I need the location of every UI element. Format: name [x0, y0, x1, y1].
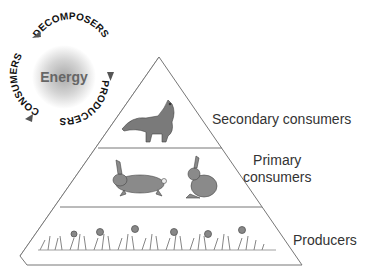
- label-producers: Producers: [293, 232, 357, 249]
- arrow-producers-to-consumers-icon: [25, 114, 33, 122]
- label-primary-line1: Primary: [243, 152, 311, 169]
- energy-cycle: Energy DECOMPOSERS PRODUCERS CONSUMERS: [8, 10, 114, 127]
- arrow-decomposers-to-producers-icon: [107, 72, 114, 81]
- label-secondary-consumers: Secondary consumers: [212, 111, 351, 128]
- cycle-stage-decomposers: DECOMPOSERS: [31, 10, 112, 40]
- label-primary-line2: consumers: [243, 169, 311, 186]
- label-primary-consumers: Primary consumers: [243, 152, 311, 186]
- energy-label: Energy: [40, 69, 88, 85]
